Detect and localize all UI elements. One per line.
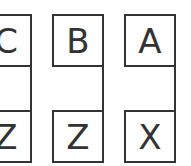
bottom-box-z: Z bbox=[0, 110, 32, 163]
column-3: A X bbox=[124, 0, 176, 166]
bottom-box-x: X bbox=[124, 110, 176, 163]
bottom-box-z: Z bbox=[52, 110, 104, 163]
top-box-c: C bbox=[0, 14, 32, 67]
column-1: C Z bbox=[0, 0, 32, 166]
connector-line bbox=[174, 66, 176, 111]
connector-line bbox=[102, 66, 104, 111]
top-box-b: B bbox=[52, 14, 104, 67]
column-2: B Z bbox=[52, 0, 104, 166]
top-box-a: A bbox=[124, 14, 176, 67]
connector-line bbox=[30, 66, 32, 111]
